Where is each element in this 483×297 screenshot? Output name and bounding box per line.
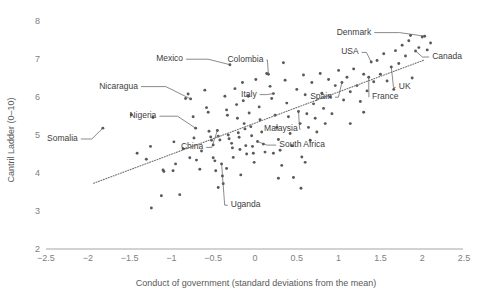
data-point xyxy=(217,186,220,189)
data-point xyxy=(280,164,283,167)
data-point xyxy=(244,144,247,147)
data-point xyxy=(319,72,322,75)
data-point xyxy=(250,134,253,137)
data-point xyxy=(254,78,257,81)
data-point xyxy=(256,140,259,143)
data-point xyxy=(214,169,217,172)
data-point xyxy=(429,42,432,45)
data-point xyxy=(386,80,389,83)
data-point xyxy=(212,156,215,159)
data-point xyxy=(287,115,290,118)
data-point xyxy=(379,73,382,76)
data-point xyxy=(310,81,313,84)
data-point xyxy=(342,99,345,102)
x-tick-label: −1 xyxy=(166,253,176,263)
data-point xyxy=(264,151,267,154)
data-point xyxy=(312,102,315,105)
scatter-chart: 8765432 −2.5−2−1.5−1−0.500.511.522.5 Som… xyxy=(0,0,483,297)
annotation-label: UK xyxy=(399,81,411,91)
annotation-leader xyxy=(159,116,195,128)
annotation-label: Uganda xyxy=(231,199,261,209)
data-point xyxy=(279,149,282,152)
data-point xyxy=(192,115,195,118)
y-tick-label: 6 xyxy=(35,92,40,102)
x-tick-label: 0.5 xyxy=(291,253,304,263)
data-point xyxy=(230,142,233,145)
data-point xyxy=(172,169,175,172)
data-point xyxy=(225,108,228,111)
annotation-label: Nigeria xyxy=(129,110,156,120)
data-point xyxy=(245,153,248,156)
annotation-label: Spain xyxy=(310,91,332,101)
y-tick-label: 4 xyxy=(35,168,40,178)
data-point xyxy=(203,89,206,92)
data-point xyxy=(198,168,201,171)
data-point xyxy=(188,156,191,159)
data-point xyxy=(366,89,369,92)
data-point xyxy=(208,130,211,133)
data-point xyxy=(304,93,307,96)
data-point xyxy=(327,78,330,81)
data-point xyxy=(277,177,280,180)
annotation-leader xyxy=(362,52,372,62)
y-tick-label: 7 xyxy=(35,54,40,64)
data-point xyxy=(359,100,362,103)
x-tick-label: 2.5 xyxy=(458,253,471,263)
data-point xyxy=(174,162,177,165)
data-point xyxy=(239,173,242,176)
trendline-layer xyxy=(94,60,424,183)
data-point xyxy=(346,76,349,79)
data-point xyxy=(258,105,261,108)
annotation-label: USA xyxy=(341,46,359,56)
x-tick-label: −2 xyxy=(83,253,93,263)
data-point xyxy=(292,176,295,179)
data-point xyxy=(243,122,246,125)
data-point xyxy=(209,135,212,138)
data-point xyxy=(307,126,310,129)
data-point xyxy=(315,131,318,134)
x-axis-title: Conduct of government (standard deviatio… xyxy=(136,278,377,288)
data-point xyxy=(238,136,241,139)
data-point xyxy=(376,59,379,62)
data-point xyxy=(284,79,287,82)
annotation-label: Mexico xyxy=(156,53,183,63)
data-point xyxy=(218,138,221,141)
data-point xyxy=(205,106,208,109)
data-point xyxy=(242,99,245,102)
data-point xyxy=(235,103,238,106)
annotation-leader xyxy=(81,128,103,139)
annotation-label: Italy xyxy=(241,89,257,99)
data-point xyxy=(330,112,333,115)
data-point xyxy=(324,122,327,125)
data-point xyxy=(145,158,148,161)
data-point xyxy=(382,52,385,55)
y-axis-ticks: 8765432 xyxy=(35,16,40,254)
data-point xyxy=(149,145,152,148)
data-point xyxy=(207,111,210,114)
data-point xyxy=(411,77,414,80)
data-point xyxy=(150,207,153,210)
data-point xyxy=(187,93,190,96)
data-point xyxy=(372,80,375,83)
data-point xyxy=(228,137,231,140)
data-point xyxy=(241,81,244,84)
annotation-leader xyxy=(186,59,230,64)
data-point xyxy=(337,69,340,72)
annotation-leader xyxy=(391,67,396,87)
x-tick-label: −1.5 xyxy=(121,253,139,263)
x-tick-label: 0 xyxy=(252,253,257,263)
trendline xyxy=(94,60,424,183)
annotation-leader xyxy=(258,142,277,146)
data-point xyxy=(160,194,163,197)
data-point xyxy=(239,148,242,151)
data-point xyxy=(248,112,251,115)
data-point xyxy=(401,44,404,47)
data-point xyxy=(172,140,175,143)
data-point xyxy=(226,114,229,117)
annotation-leader xyxy=(141,87,191,99)
data-point xyxy=(233,87,236,90)
annotation-label: Colombia xyxy=(227,54,263,64)
x-tick-label: −0.5 xyxy=(204,253,222,263)
data-point xyxy=(394,49,397,52)
x-tick-label: 2 xyxy=(420,253,425,263)
